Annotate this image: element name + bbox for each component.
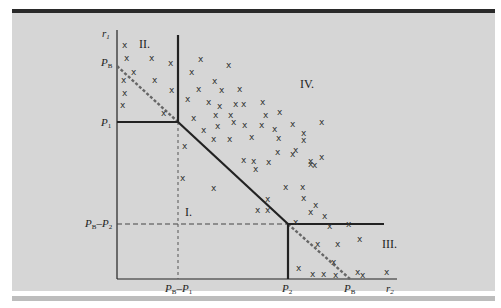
- marker-x: x: [191, 113, 197, 123]
- marker-x: x: [335, 239, 341, 249]
- marker-x: x: [131, 67, 137, 77]
- marker-x: x: [152, 75, 158, 85]
- marker-x: x: [124, 53, 130, 63]
- marker-x: x: [265, 205, 271, 215]
- marker-x: x: [149, 53, 155, 63]
- marker-x: x: [265, 194, 271, 204]
- marker-x: x: [301, 193, 307, 203]
- marker-x: x: [241, 99, 247, 109]
- marker-x: x: [180, 173, 186, 183]
- marker-x: x: [198, 54, 204, 64]
- marker-x: x: [300, 182, 306, 192]
- marker-x: x: [227, 134, 233, 144]
- marker-x: x: [308, 156, 314, 166]
- boundary-diagonal: [178, 122, 288, 224]
- marker-x: x: [259, 120, 265, 130]
- y-axis-label: r1: [102, 27, 110, 41]
- marker-x: x: [276, 133, 282, 143]
- marker-x: x: [253, 164, 259, 174]
- marker-x: x: [384, 267, 390, 277]
- marker-x: x: [308, 207, 314, 217]
- marker-x: x: [260, 97, 266, 107]
- x-tick-pb-minus-p1: PB–P1: [164, 282, 193, 296]
- region-iv-label: IV.: [300, 77, 314, 91]
- marker-x: x: [266, 157, 272, 167]
- marker-x: x: [296, 263, 302, 273]
- y-tick-pb: PB: [100, 56, 113, 70]
- marker-x: x: [242, 120, 248, 130]
- marker-x: x: [231, 117, 237, 127]
- marker-x: x: [211, 183, 217, 193]
- marker-x: x: [283, 182, 289, 192]
- sample-markers: xxxxxxxxxxxxxxxxxxxxxxxxxxxxxxxxxxxxxxxx…: [120, 40, 390, 280]
- region-i-label: I.: [185, 205, 192, 219]
- marker-x: x: [357, 234, 363, 244]
- marker-x: x: [211, 134, 217, 144]
- marker-x: x: [241, 155, 247, 165]
- marker-x: x: [310, 269, 316, 279]
- marker-x: x: [277, 107, 283, 117]
- marker-x: x: [201, 125, 207, 135]
- marker-x: x: [120, 100, 126, 110]
- marker-x: x: [315, 239, 321, 249]
- marker-x: x: [319, 117, 325, 127]
- marker-x: x: [215, 121, 221, 131]
- y-tick-pb-minus-p2: PB–P2: [84, 217, 113, 231]
- marker-x: x: [182, 141, 188, 151]
- marker-x: x: [290, 149, 296, 159]
- marker-x: x: [226, 60, 232, 70]
- marker-x: x: [206, 97, 212, 107]
- marker-x: x: [196, 84, 202, 94]
- marker-x: x: [255, 205, 261, 215]
- marker-x: x: [169, 85, 175, 95]
- marker-x: x: [346, 219, 352, 229]
- marker-x: x: [333, 270, 339, 280]
- marker-x: x: [212, 76, 218, 86]
- marker-x: x: [360, 270, 366, 280]
- marker-x: x: [327, 221, 333, 231]
- marker-x: x: [121, 75, 127, 85]
- x-tick-p2: P2: [281, 282, 293, 296]
- marker-x: x: [237, 84, 243, 94]
- region-iii-label: III.: [382, 237, 397, 251]
- marker-x: x: [322, 211, 328, 221]
- marker-x: x: [293, 217, 299, 227]
- marker-x: x: [185, 94, 191, 104]
- marker-x: x: [213, 110, 219, 120]
- marker-x: x: [331, 257, 337, 267]
- marker-x: x: [161, 108, 167, 118]
- marker-x: x: [122, 40, 128, 50]
- x-tick-pb: PB: [343, 282, 356, 296]
- y-tick-p1: P1: [100, 116, 112, 130]
- marker-x: x: [263, 110, 269, 120]
- marker-x: x: [249, 132, 255, 142]
- marker-x: x: [313, 200, 319, 210]
- marker-x: x: [301, 135, 307, 145]
- marker-x: x: [290, 119, 296, 129]
- marker-x: x: [189, 67, 195, 77]
- region-ii-label: II.: [139, 37, 150, 51]
- marker-x: x: [319, 152, 325, 162]
- marker-x: x: [321, 269, 327, 279]
- marker-x: x: [233, 99, 239, 109]
- x-axis-label: r2: [386, 282, 394, 296]
- diagram-canvas: r1 r2 PB P1 PB–P2 PB–P1 P2 PB II. IV. I.…: [0, 0, 501, 308]
- marker-x: x: [219, 85, 225, 95]
- marker-x: x: [122, 88, 128, 98]
- marker-x: x: [168, 58, 174, 68]
- marker-x: x: [275, 147, 281, 157]
